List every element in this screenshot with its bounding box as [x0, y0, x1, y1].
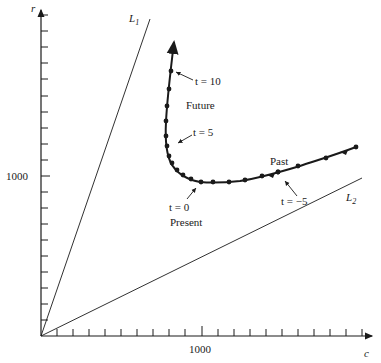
pointer-t10: [176, 72, 193, 80]
t10-label: t = 10: [195, 76, 221, 87]
pointer-tm5: [285, 181, 297, 196]
c-axis-label: c: [364, 348, 369, 359]
x-axis-ticks: [57, 326, 362, 336]
line-L2: [41, 178, 362, 336]
future-label: Future: [186, 100, 215, 111]
tm5-label: t = −5: [281, 196, 307, 207]
x-axis: [41, 326, 372, 336]
y-tick-label-1000: 1000: [6, 171, 28, 182]
line-L1: [41, 19, 150, 336]
trajectory-curve: [166, 42, 356, 183]
r-axis-label: r: [31, 3, 35, 14]
L1-label: L1: [129, 13, 139, 27]
y-axis-ticks: [41, 15, 50, 320]
pointer-t0: [187, 188, 196, 199]
pointer-t5: [178, 135, 192, 143]
t0-label: t = 0: [169, 202, 189, 213]
phase-diagram: [0, 0, 381, 363]
L2-label: L2: [346, 192, 356, 206]
past-label: Past: [270, 156, 288, 167]
present-label: Present: [170, 217, 202, 228]
y-axis: [41, 10, 50, 336]
t5-label: t = 5: [193, 127, 213, 138]
x-tick-label-1000: 1000: [189, 344, 211, 355]
